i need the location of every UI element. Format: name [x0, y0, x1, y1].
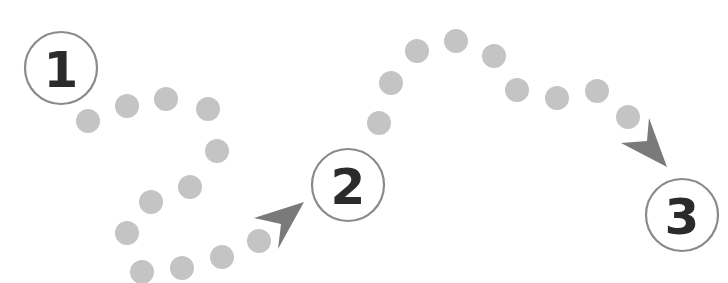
- step-2-number: 2: [331, 158, 366, 216]
- path-dot: [196, 97, 220, 121]
- path-1-to-2: [76, 87, 304, 283]
- path-2-to-3: [367, 29, 667, 167]
- path-dot: [545, 86, 569, 110]
- path-dot: [247, 229, 271, 253]
- path-dot: [367, 111, 391, 135]
- step-3-marker: 3: [646, 179, 718, 251]
- path-dot: [139, 190, 163, 214]
- step-path-diagram: 1 2 3: [0, 0, 728, 283]
- path-dot: [210, 245, 234, 269]
- path-dot: [115, 94, 139, 118]
- step-1-marker: 1: [25, 32, 97, 104]
- path-dot: [115, 221, 139, 245]
- step-markers: 1 2 3: [25, 32, 718, 251]
- path-dot: [405, 39, 429, 63]
- path-dot: [170, 256, 194, 280]
- step-3-number: 3: [665, 188, 700, 246]
- path-dot: [505, 78, 529, 102]
- path-dot: [616, 105, 640, 129]
- path-dot: [154, 87, 178, 111]
- path-dot: [482, 44, 506, 68]
- path-dot: [379, 71, 403, 95]
- path-dot: [205, 139, 229, 163]
- path-dot: [585, 79, 609, 103]
- step-1-number: 1: [44, 41, 79, 99]
- path-dot: [130, 260, 154, 283]
- path-dot: [76, 109, 100, 133]
- dotted-paths: [76, 29, 667, 283]
- path-dot: [444, 29, 468, 53]
- step-2-marker: 2: [312, 149, 384, 221]
- path-dot: [178, 175, 202, 199]
